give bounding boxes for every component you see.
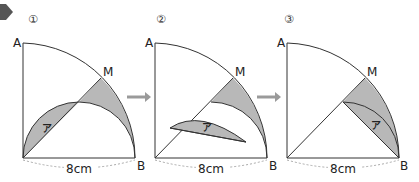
shaded-region-m: [211, 78, 267, 158]
region-a-label: ア: [42, 123, 52, 134]
dimension-label: 8cm: [198, 162, 224, 176]
dimension-label: 8cm: [66, 162, 92, 176]
point-m-label: M: [367, 65, 377, 79]
panel-3: ③ A M B ア 8cm: [277, 13, 408, 176]
step-label: ②: [156, 13, 166, 26]
diagram-canvas: ① A M B ア 8cm ② A M B ア 8cm: [0, 0, 419, 182]
section-marker-icon: [0, 4, 13, 20]
arrow-right-icon: [127, 92, 151, 102]
dimension-label: 8cm: [330, 162, 356, 176]
point-a-label: A: [145, 36, 154, 50]
shaded-region-combined: [343, 78, 399, 158]
point-m-label: M: [235, 65, 245, 79]
step-label: ③: [284, 13, 294, 26]
point-b-label: B: [269, 159, 277, 173]
region-a-label: ア: [202, 122, 212, 133]
panel-2: ② A M B ア 8cm: [145, 13, 277, 176]
point-b-label: B: [400, 159, 408, 173]
arrow-right-icon: [257, 92, 281, 102]
chord-bm: [287, 78, 365, 158]
shaded-region-m: [79, 78, 135, 158]
point-a-label: A: [13, 36, 22, 50]
panel-1: ① A M B ア 8cm: [13, 13, 145, 176]
region-a-label: ア: [371, 120, 381, 131]
point-m-label: M: [103, 65, 113, 79]
point-b-label: B: [137, 159, 145, 173]
chord-bm: [23, 78, 101, 158]
point-a-label: A: [277, 36, 286, 50]
step-label: ①: [28, 13, 38, 26]
chord-bm: [155, 78, 233, 158]
